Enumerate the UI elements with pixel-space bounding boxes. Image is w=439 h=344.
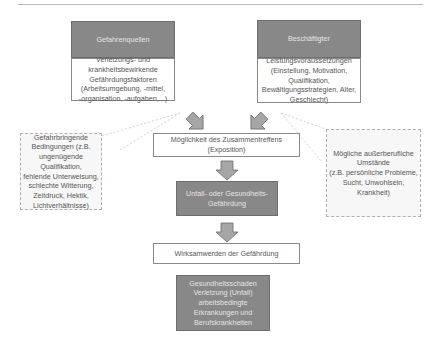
effect-box: Wirksamwerden der Gefährdung bbox=[153, 243, 300, 264]
sources-header: Gefahrenquellen bbox=[71, 21, 175, 58]
hazard-box: Unfall- oder Gesundheits- Gefährdung bbox=[176, 181, 278, 216]
left-callout: Gefahrbringende Bedingungen (z.B. ungenü… bbox=[20, 133, 102, 210]
left-callout-text: Gefahrbringende Bedingungen (z.B. ungenü… bbox=[21, 133, 101, 211]
arrow-down-icon bbox=[216, 223, 238, 242]
employees-header-label: Beschäftigter bbox=[288, 34, 330, 44]
hazard-text: Unfall- oder Gesundheits- Gefährdung bbox=[186, 189, 268, 208]
employees-body: Leistungsvoraussetzungen (Einstellung, M… bbox=[257, 58, 361, 103]
arrow-down-right-icon bbox=[183, 109, 211, 137]
sources-body-text: Verletzungs- und krankheitsbewirkende Ge… bbox=[79, 55, 167, 104]
exposure-text: Möglichkeit des Zusammentreffens (Exposi… bbox=[171, 135, 282, 154]
employees-header: Beschäftigter bbox=[257, 20, 361, 58]
arrow-down-left-icon bbox=[244, 109, 272, 137]
sources-header-label: Gefahrenquellen bbox=[96, 35, 149, 45]
sources-body: Verletzungs- und krankheitsbewirkende Ge… bbox=[71, 58, 175, 101]
outcome-text: Gesundheitsschaden Verletzung (Unfall) a… bbox=[189, 279, 257, 328]
exposure-box: Möglichkeit des Zusammentreffens (Exposi… bbox=[153, 133, 300, 157]
outcome-box: Gesundheitsschaden Verletzung (Unfall) a… bbox=[176, 275, 270, 331]
employees-body-text: Leistungsvoraussetzungen (Einstellung, M… bbox=[262, 56, 356, 105]
effect-text: Wirksamwerden der Gefährdung bbox=[175, 249, 279, 259]
arrow-down-icon bbox=[216, 161, 238, 180]
right-callout-text: Mögliche außerberufliche Umstände (z.B. … bbox=[329, 149, 417, 198]
right-callout: Mögliche außerberufliche Umstände (z.B. … bbox=[326, 129, 421, 217]
